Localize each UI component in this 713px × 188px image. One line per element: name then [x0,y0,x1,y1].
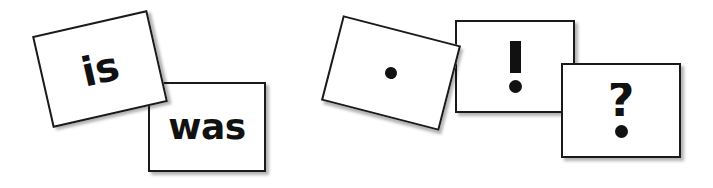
question-mark-icon: ? [608,83,635,138]
flashcard-period[interactable]: . [321,15,461,131]
flashcard-exclamation[interactable]: ! [455,20,575,113]
exclamation-mark-icon [509,41,522,93]
flashcard-face: ? ? [563,65,679,156]
period-icon [384,66,399,81]
flashcard-face: was [150,84,264,170]
exclamation-dot [509,80,522,93]
exclamation-stem [510,41,521,73]
flashcard-face: . [323,18,458,129]
flashcard-question[interactable]: ? ? [561,63,681,158]
flashcard-label-is: is [78,45,122,92]
question-dot [615,125,628,138]
flashcard-face: ! [457,22,573,111]
flashcard-label-was: was [168,109,245,145]
question-hook: ? [608,83,635,117]
flashcard-face: is [34,12,165,125]
flashcard-canvas: is was . ! ? ? [0,0,713,188]
